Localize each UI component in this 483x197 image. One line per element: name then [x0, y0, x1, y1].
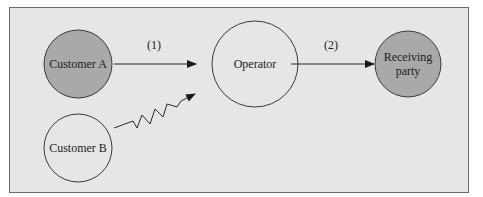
receiving-party-label-line2: party	[396, 64, 421, 78]
edge-operator-to-receiving-party: (2)	[291, 38, 374, 64]
node-customer-a: Customer A	[44, 30, 112, 98]
node-operator: Operator	[212, 21, 298, 107]
call-flow-diagram: Customer A Customer B Operator Receiving…	[0, 0, 483, 197]
edge-label-1: (1)	[147, 38, 161, 52]
zigzag-arrow-icon	[114, 94, 195, 128]
customer-a-label: Customer A	[49, 57, 107, 71]
operator-label: Operator	[234, 57, 277, 71]
customer-b-label: Customer B	[49, 141, 107, 155]
edge-customer-b-to-operator	[114, 94, 195, 128]
node-customer-b: Customer B	[44, 114, 112, 182]
node-receiving-party: Receiving party	[375, 31, 441, 97]
receiving-party-label-line1: Receiving	[384, 50, 433, 64]
edge-customer-a-to-operator: (1)	[114, 38, 196, 64]
edge-label-2: (2)	[324, 38, 338, 52]
